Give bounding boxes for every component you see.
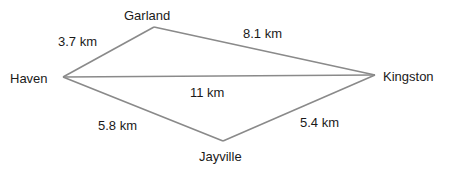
route-lines	[0, 0, 451, 174]
distance-label-garland-kingston: 8.1 km	[243, 27, 282, 40]
edge-haven-kingston	[63, 75, 375, 77]
distance-diagram: 3.7 km8.1 km11 km5.8 km5.4 kmHavenGarlan…	[0, 0, 451, 174]
town-label-garland: Garland	[124, 9, 170, 22]
distance-label-haven-garland: 3.7 km	[58, 35, 97, 48]
distance-label-jayville-kingston: 5.4 km	[300, 116, 339, 129]
town-label-haven: Haven	[10, 72, 48, 85]
edge-jayville-kingston	[223, 75, 375, 141]
distance-label-haven-kingston: 11 km	[190, 86, 224, 99]
town-label-jayville: Jayville	[199, 150, 242, 163]
distance-label-haven-jayville: 5.8 km	[98, 119, 137, 132]
town-label-kingston: Kingston	[383, 70, 434, 83]
